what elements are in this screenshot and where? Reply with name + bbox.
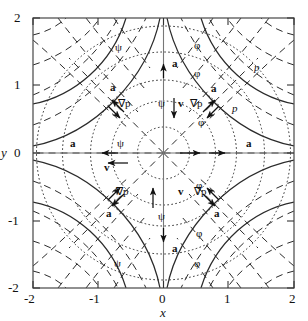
label-a-top: a [172,58,178,69]
y-tick-label-neg2: -2 [8,280,19,296]
label-a-right: a [246,138,252,149]
plot-canvas [0,0,308,321]
label-phi-bottom: φ [194,258,200,269]
label-psi-bottom-left: ψ [114,258,121,269]
label-gradp-upper-right: ∇p [190,98,203,109]
x-tick-label-1: 1 [224,291,231,307]
potential-flow-figure: 2 1 0 -1 -2 y -2 -1 0 1 2 x ψ φ φ p a a … [0,0,308,321]
label-a-upper-left: a [110,82,116,93]
label-a-lower-left: a [106,208,112,219]
label-a-lower-right: a [214,208,220,219]
label-psi-left: ψ [117,138,124,149]
x-axis-label: x [160,305,166,321]
label-gradp-lower-right: ∇p [194,186,207,197]
label-psi-lower-center: ψ [158,211,165,222]
label-psi-top-left: ψ [115,42,122,53]
label-psi-upper-center: ψ [158,98,165,109]
label-phi-upper-right: φ [194,68,200,79]
label-phi-bottom-right: φ [196,228,202,239]
y-tick-label-0: 0 [14,145,21,161]
x-tick-label-neg1: -1 [89,291,100,307]
label-gradp-upper-left: ∇p [118,98,131,109]
label-a-left: a [70,138,76,149]
label-phi-mid-right: φ [198,117,204,128]
x-tick-label-2: 2 [289,291,296,307]
label-v-left: v [104,162,110,173]
label-v-top: v [178,98,184,109]
y-tick-label-neg1: -1 [8,213,19,229]
label-phi-top-right: φ [194,40,200,51]
label-a-bottom: a [172,243,178,254]
y-tick-label-1: 1 [14,77,21,93]
label-gradp-lower-left: ∇p [116,186,129,197]
x-tick-label-neg2: -2 [24,291,35,307]
label-v-bottom: v [178,186,184,197]
label-p-right: p [232,103,238,114]
label-p-upper-right: p [254,62,260,73]
label-a-upper-right: a [211,83,217,94]
y-axis-label: y [1,145,7,161]
y-tick-label-2: 2 [14,10,21,26]
